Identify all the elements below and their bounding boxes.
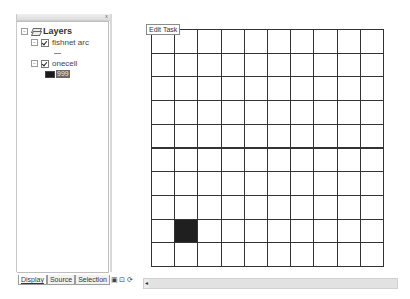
layout-view-icon[interactable]: ⊡ [118, 275, 126, 284]
grid-cell [151, 53, 175, 78]
grid-cell [267, 148, 291, 173]
grid-cell [197, 148, 221, 173]
grid-cell [197, 242, 221, 267]
refresh-icon[interactable]: ⟳ [126, 275, 134, 284]
tab-display[interactable]: Display [18, 275, 47, 285]
data-view-icon[interactable]: ▣ [110, 275, 118, 284]
grid-cell [197, 29, 221, 54]
grid-cell [337, 76, 361, 101]
horizontal-scrollbar[interactable]: ◂ [143, 278, 398, 289]
grid-cell [151, 100, 175, 125]
grid-cell [174, 148, 198, 173]
grid-cell [313, 76, 337, 101]
grid-cell [221, 195, 245, 220]
grid-cell [221, 100, 245, 125]
grid-cell [174, 53, 198, 78]
grid-cell [151, 148, 175, 173]
grid-cell [151, 242, 175, 267]
grid-cell [337, 195, 361, 220]
grid-cell [290, 242, 314, 267]
tree-node-onecell[interactable]: − onecell [31, 59, 77, 68]
grid-cell [360, 124, 384, 149]
grid-cell [337, 29, 361, 54]
grid-cell [337, 219, 361, 244]
grid-cell [197, 219, 221, 244]
grid-cell [290, 53, 314, 78]
grid-cell [151, 76, 175, 101]
grid-cell [360, 171, 384, 196]
grid-cell [244, 29, 268, 54]
grid-cell [267, 100, 291, 125]
grid-cell [221, 124, 245, 149]
grid-cell [337, 53, 361, 78]
grid-cell [267, 124, 291, 149]
grid-cell [174, 100, 198, 125]
grid-cell [197, 100, 221, 125]
grid-cell [313, 100, 337, 125]
grid-cell [360, 29, 384, 54]
grid-cell [313, 148, 337, 173]
toc-tree: − Layers − fishnet arc − onecell 999 [17, 21, 109, 273]
line-symbol-icon [54, 53, 61, 54]
grid-cell [290, 29, 314, 54]
layer-visibility-checkbox[interactable] [41, 60, 49, 68]
grid-cell [197, 171, 221, 196]
grid-cell [290, 171, 314, 196]
grid-cell [174, 124, 198, 149]
legend-item-999[interactable]: 999 [45, 70, 70, 78]
grid-cell [174, 242, 198, 267]
toc-splitter[interactable] [110, 14, 112, 272]
collapse-icon[interactable]: − [31, 60, 38, 67]
layers-root-label: Layers [43, 26, 72, 36]
grid-cell [151, 219, 175, 244]
tree-node-fishnet-arc[interactable]: − fishnet arc [31, 38, 89, 47]
grid-cell [221, 53, 245, 78]
collapse-icon[interactable]: − [21, 28, 28, 35]
grid-cell [360, 148, 384, 173]
grid-cell [151, 171, 175, 196]
grid-cell [290, 219, 314, 244]
tab-source[interactable]: Source [47, 275, 75, 285]
grid-cell [244, 148, 268, 173]
toc-titlebar[interactable]: x [17, 14, 110, 21]
edit-task-label[interactable]: Edit Task [146, 24, 180, 35]
layers-icon [31, 28, 40, 35]
grid-cell [221, 148, 245, 173]
grid-cell [267, 29, 291, 54]
grid-cell [174, 219, 198, 244]
grid-cell [313, 242, 337, 267]
fill-swatch-icon [45, 71, 55, 78]
grid-cell [337, 242, 361, 267]
tree-node-layers[interactable]: − Layers [21, 26, 72, 36]
grid-cell [290, 76, 314, 101]
grid-cell [337, 124, 361, 149]
grid-cell [313, 53, 337, 78]
grid-cell [290, 100, 314, 125]
table-of-contents-panel: x − Layers − fishnet arc − onecell 999 [16, 14, 110, 272]
grid-cell [197, 53, 221, 78]
grid-cell [174, 171, 198, 196]
grid-cell [197, 124, 221, 149]
grid-cell [360, 53, 384, 78]
layer-visibility-checkbox[interactable] [41, 39, 49, 47]
grid-cell [337, 100, 361, 125]
grid-cell [313, 195, 337, 220]
grid-cell [244, 124, 268, 149]
view-toggle-bar: ▣ ⊡ ⟳ [110, 275, 134, 284]
grid-cell [244, 242, 268, 267]
grid-cell [360, 195, 384, 220]
grid-cell [151, 195, 175, 220]
collapse-icon[interactable]: − [31, 39, 38, 46]
grid-cell [267, 53, 291, 78]
grid-cell [360, 219, 384, 244]
tab-selection[interactable]: Selection [75, 275, 110, 285]
grid-cell [267, 195, 291, 220]
layer-name: onecell [52, 59, 77, 68]
grid-cell [244, 219, 268, 244]
grid-cell [221, 219, 245, 244]
scroll-left-icon[interactable]: ◂ [144, 279, 149, 288]
grid-cell [360, 76, 384, 101]
close-icon[interactable]: x [104, 14, 109, 19]
map-display[interactable]: Edit Task [143, 20, 396, 276]
fishnet-grid [151, 29, 383, 266]
